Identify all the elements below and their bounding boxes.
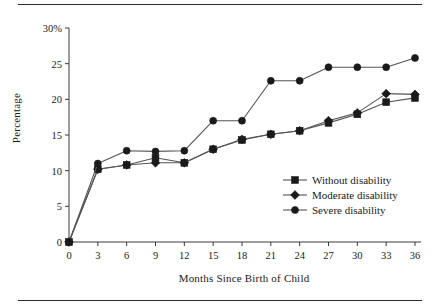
- x-tick-label: 15: [208, 250, 219, 261]
- diamond-marker-icon: [291, 191, 300, 200]
- square-marker-icon: [282, 173, 308, 187]
- x-tick-label: 6: [124, 250, 129, 261]
- circle-marker-icon: [412, 54, 419, 61]
- x-tick-label: 9: [153, 250, 158, 261]
- x-tick-label: 21: [266, 250, 277, 261]
- square-marker-icon: [383, 99, 390, 106]
- x-tick-label: 27: [323, 250, 334, 261]
- x-tick-label: 12: [179, 250, 190, 261]
- legend-label: Without disability: [308, 174, 391, 186]
- y-tick-label: 30%: [22, 23, 62, 34]
- circle-marker-icon: [292, 207, 299, 214]
- circle-marker-icon: [296, 77, 303, 84]
- x-tick-label: 30: [352, 250, 363, 261]
- series-moderate-disability: [65, 89, 420, 246]
- legend-label: Moderate disability: [308, 189, 398, 201]
- series-line: [69, 94, 415, 242]
- figure-container: Percentage Months Since Birth of Child 3…: [0, 0, 437, 305]
- circle-marker-icon: [325, 64, 332, 71]
- circle-marker-icon: [383, 64, 390, 71]
- y-tick-label: 10: [22, 165, 62, 176]
- x-tick-label: 33: [381, 250, 392, 261]
- circle-marker-icon: [123, 147, 130, 154]
- circle-marker-icon: [181, 147, 188, 154]
- circle-marker-icon: [282, 203, 308, 217]
- circle-marker-icon: [152, 148, 159, 155]
- legend-entry: Without disability: [282, 173, 398, 187]
- x-tick-label: 24: [294, 250, 305, 261]
- legend-label: Severe disability: [308, 204, 386, 216]
- circle-marker-icon: [94, 160, 101, 167]
- chart-legend: Without disabilityModerate disabilitySev…: [282, 173, 398, 218]
- x-tick-label: 3: [95, 250, 100, 261]
- y-tick-label: 15: [22, 130, 62, 141]
- y-axis-title: Percentage: [10, 78, 22, 158]
- circle-marker-icon: [354, 64, 361, 71]
- circle-marker-icon: [66, 239, 73, 246]
- legend-entry: Severe disability: [282, 203, 398, 217]
- square-marker-icon: [292, 177, 299, 184]
- diamond-marker-icon: [382, 89, 391, 98]
- y-tick-label: 5: [22, 201, 62, 212]
- circle-marker-icon: [267, 77, 274, 84]
- x-axis-title: Months Since Birth of Child: [68, 272, 420, 284]
- y-tick-label: 20: [22, 94, 62, 105]
- y-tick-label: 0: [22, 237, 62, 248]
- legend-entry: Moderate disability: [282, 188, 398, 202]
- circle-marker-icon: [239, 117, 246, 124]
- x-tick-label: 18: [237, 250, 248, 261]
- x-tick-label: 36: [410, 250, 421, 261]
- circle-marker-icon: [210, 117, 217, 124]
- x-tick-label: 0: [66, 250, 71, 261]
- y-tick-label: 25: [22, 58, 62, 69]
- diamond-marker-icon: [282, 188, 308, 202]
